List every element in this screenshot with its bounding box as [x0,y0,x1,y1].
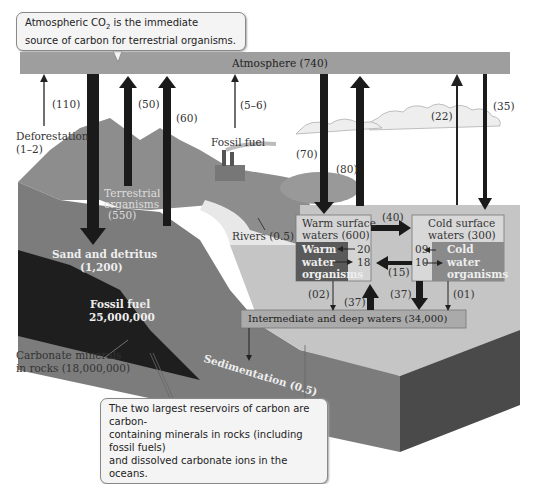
callout-bottom-line1: The two largest reservoirs of carbon are… [109,402,319,428]
fossil-fuel-value: 25,000,000 [89,311,155,323]
callout-top-line2: source of carbon for terrestrial organis… [25,34,237,47]
callout-top-text: Atmospheric CO [25,17,106,28]
carbonate-minerals-value: in rocks (18,000,000) [16,362,130,374]
rivers-label: Rivers (0.5) [232,230,294,242]
flux-37-up: (37) [344,296,366,308]
callout-top-text-rest: is the immediate [110,17,198,28]
flux-80: (80) [336,163,358,175]
flux-01: (01) [453,288,475,300]
warm-organisms-label: Warm [302,243,336,256]
flux-20: 20 [357,243,370,255]
cold-surface-value: waters (300) [428,229,496,242]
sand-detritus-value: (1,200) [80,261,123,273]
flux-15: (15) [388,266,410,278]
flux-10: 10 [415,256,428,268]
fossil-fuel-emission-label: Fossil fuel [211,136,265,148]
callout-bottom-line3: and dissolved carbonate ions in the ocea… [109,454,319,480]
flux-5-6: (5–6) [240,99,267,111]
callout-largest-reservoirs: The two largest reservoirs of carbon are… [100,398,328,484]
warm-organisms-label-3: organisms [302,268,363,281]
flux-37-down: (37) [390,288,412,300]
deforestation-value: (1–2) [16,143,43,155]
sand-detritus-label: Sand and detritus [52,248,157,260]
flux-40: (40) [382,211,404,223]
flux-70: (70) [296,148,318,160]
flux-35: (35) [493,100,515,112]
flux-50: (50) [138,98,160,110]
carbonate-minerals-label: Carbonate minerals [16,349,121,361]
cloud-icon [296,119,382,134]
cold-organisms-label: Cold [447,243,474,256]
fossil-fuel-label: Fossil fuel [90,298,150,310]
factory-icon [215,165,245,181]
callout-bottom-line2: containing minerals in rocks (including … [109,428,319,454]
flux-02: (02) [308,288,330,300]
deforestation-label: Deforestation [16,130,89,142]
warm-surface-value: waters (600) [302,229,370,242]
atmosphere-label: Atmosphere (740) [232,57,328,69]
callout-atmospheric-co2: Atmospheric CO2 is the immediate source … [16,12,246,51]
deep-waters-label: Intermediate and deep waters (34,000) [248,313,447,324]
flux-09: 09 [415,243,428,255]
terrestrial-organisms-value: (550) [108,209,136,221]
flux-18: 18 [357,256,370,268]
flux-110: (110) [52,98,80,110]
flux-60: (60) [176,112,198,124]
cold-organisms-label-3: organisms [447,268,508,281]
flux-22: (22) [431,110,453,122]
